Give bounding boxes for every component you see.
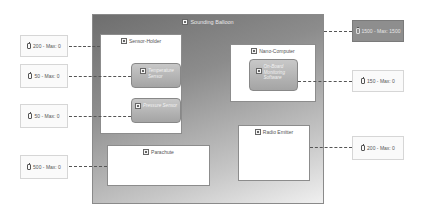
battery-icon xyxy=(27,43,31,49)
battery-icon xyxy=(28,73,32,79)
parachute-weight-tag[interactable]: 500 - Max: 0 xyxy=(20,155,68,179)
sounding-balloon-weight-tag[interactable]: 1500 - Max: 1500 xyxy=(352,20,404,42)
monitoring-software-label: On-Board Monitoring Software xyxy=(264,64,292,81)
battery-icon xyxy=(356,28,360,34)
battery-icon xyxy=(361,145,365,151)
component-icon xyxy=(182,19,188,25)
component-icon xyxy=(140,68,146,74)
radio-emitter-title: Radio Emitter xyxy=(263,129,293,135)
battery-icon xyxy=(28,113,32,119)
nano-computer-weight-tag[interactable]: 150 - Max: 0 xyxy=(352,70,404,92)
component-icon xyxy=(143,149,149,155)
nano-computer-title: Nano-Computer xyxy=(259,48,295,54)
pressure-sensor-component[interactable]: Pressure Sensor xyxy=(131,98,181,123)
sensor-holder-title: Sensor-Holder xyxy=(129,38,161,44)
temperature-sensor-component[interactable]: Temperature Sensor xyxy=(131,63,181,88)
battery-icon xyxy=(361,78,365,84)
sounding-balloon-header: Sounding Balloon xyxy=(93,15,323,29)
component-icon xyxy=(121,38,127,44)
connector-line xyxy=(69,76,131,77)
connector-line xyxy=(310,147,352,148)
pressure-sensor-label: Pressure Sensor xyxy=(143,103,177,109)
connector-line xyxy=(69,166,107,167)
sensor-holder-weight-tag[interactable]: 200 - Max: 0 xyxy=(20,35,68,57)
temperature-sensor-weight-tag[interactable]: 50 - Max: 0 xyxy=(20,64,68,88)
component-icon xyxy=(255,129,261,135)
monitoring-software-component[interactable]: On-Board Monitoring Software xyxy=(249,59,298,91)
pressure-sensor-weight-tag[interactable]: 50 - Max: 0 xyxy=(20,104,68,128)
sounding-balloon-title: Sounding Balloon xyxy=(190,19,233,25)
radio-emitter-box[interactable]: Radio Emitter xyxy=(238,125,310,181)
connector-line xyxy=(298,81,352,82)
battery-icon xyxy=(27,164,31,170)
component-icon xyxy=(251,48,257,54)
connector-line xyxy=(69,116,131,117)
temperature-sensor-label: Temperature Sensor xyxy=(148,68,172,79)
component-icon xyxy=(256,68,262,74)
radio-emitter-weight-tag[interactable]: 200 - Max: 0 xyxy=(352,136,404,160)
parachute-box[interactable]: Parachute xyxy=(107,145,210,186)
connector-line xyxy=(69,46,100,47)
parachute-title: Parachute xyxy=(151,149,174,155)
component-icon xyxy=(135,103,141,109)
connector-line xyxy=(324,31,352,32)
